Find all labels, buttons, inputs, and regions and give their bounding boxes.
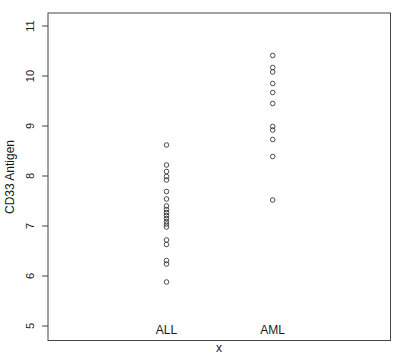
- plot-area-border: [48, 13, 391, 341]
- data-point-aml: [270, 198, 275, 203]
- data-point-all: [164, 169, 169, 174]
- data-point-all: [164, 163, 169, 168]
- strip-chart-figure: 567891011 ALLAML CD33 Antigen x: [0, 0, 406, 359]
- data-point-aml: [270, 65, 275, 70]
- data-point-all: [164, 189, 169, 194]
- data-point-aml: [270, 154, 275, 159]
- y-axis: 567891011: [24, 20, 48, 329]
- strip-chart: 567891011 ALLAML CD33 Antigen x: [0, 0, 406, 359]
- data-point-all: [164, 143, 169, 148]
- data-point-all: [164, 242, 169, 247]
- data-point-all: [164, 238, 169, 243]
- data-point-all: [164, 197, 169, 202]
- category-label-aml: AML: [260, 323, 285, 337]
- y-tick-label: 6: [24, 273, 36, 279]
- y-tick-label: 10: [24, 70, 36, 82]
- data-point-all: [164, 225, 169, 230]
- y-tick-label: 11: [24, 20, 36, 31]
- data-point-aml: [270, 81, 275, 86]
- data-point-all: [164, 280, 169, 285]
- y-tick-label: 7: [24, 223, 36, 229]
- data-point-aml: [270, 53, 275, 58]
- y-tick-label: 8: [24, 173, 36, 179]
- category-label-all: ALL: [156, 323, 178, 337]
- y-axis-label: CD33 Antigen: [3, 140, 17, 214]
- y-tick-label: 5: [24, 323, 36, 329]
- data-point-aml: [270, 90, 275, 95]
- data-points: [164, 53, 275, 284]
- data-point-aml: [270, 137, 275, 142]
- data-point-aml: [270, 70, 275, 75]
- x-axis-label: x: [216, 341, 222, 355]
- x-axis-categories: ALLAML: [156, 323, 286, 337]
- y-tick-label: 9: [24, 123, 36, 129]
- data-point-aml: [270, 101, 275, 106]
